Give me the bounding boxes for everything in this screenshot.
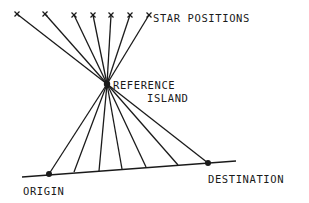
reference-island-label-line2: ISLAND — [147, 93, 189, 104]
star-x-icon — [15, 12, 20, 17]
star-sight-line — [107, 15, 149, 84]
origin-label: ORIGIN — [23, 186, 65, 197]
reference-island-marker — [104, 81, 110, 87]
origin-dot — [46, 171, 52, 177]
baseline-sight-line — [107, 84, 146, 167]
baseline-sight-line — [99, 84, 107, 171]
star-x-icon — [147, 13, 152, 18]
destination-label: DESTINATION — [208, 174, 284, 185]
star-sight-line — [17, 14, 107, 84]
course-baseline — [22, 161, 236, 177]
baseline-sight-line — [107, 84, 122, 169]
star-sight-lines — [17, 14, 149, 84]
star-x-icon — [43, 12, 48, 17]
star-sight-line — [74, 15, 107, 84]
reference-island-label: REFERENCE — [113, 80, 175, 91]
destination-dot — [205, 160, 211, 166]
star-sight-line — [93, 15, 107, 84]
star-sight-line — [45, 14, 107, 84]
star-position-markers — [15, 12, 152, 18]
star-x-icon — [72, 13, 77, 18]
star-positions-label: STAR POSITIONS — [153, 13, 250, 24]
